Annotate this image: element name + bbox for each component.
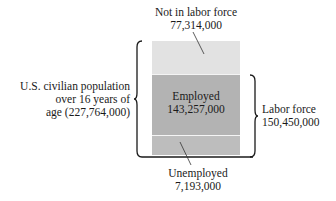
population-stack: Employed 143,257,000 bbox=[152, 41, 240, 155]
unemployed-title: Unemployed bbox=[148, 167, 248, 180]
employed-value: 143,257,000 bbox=[152, 103, 240, 116]
total-population-label: U.S. civilian population over 16 years o… bbox=[2, 80, 130, 119]
segment-employed: Employed 143,257,000 bbox=[152, 75, 240, 135]
labor-force-value: 150,450,000 bbox=[262, 116, 336, 129]
labor-force-title: Labor force bbox=[262, 103, 336, 116]
unemployed-value: 7,193,000 bbox=[148, 180, 248, 193]
segment-not-in-labor-force bbox=[152, 41, 240, 74]
not-in-labor-force-title: Not in labor force bbox=[140, 6, 252, 19]
total-population-line2: over 16 years of bbox=[2, 93, 130, 106]
employed-title: Employed bbox=[152, 90, 240, 103]
labor-force-brace-icon bbox=[250, 75, 258, 157]
segment-unemployed bbox=[152, 136, 240, 155]
labor-force-label: Labor force 150,450,000 bbox=[262, 103, 336, 129]
total-population-line1: U.S. civilian population bbox=[2, 80, 130, 93]
not-in-labor-force-value: 77,314,000 bbox=[140, 19, 252, 32]
unemployed-label: Unemployed 7,193,000 bbox=[148, 167, 248, 193]
not-in-labor-force-label: Not in labor force 77,314,000 bbox=[140, 6, 252, 32]
total-population-brace-icon bbox=[134, 41, 142, 157]
total-population-line3: age (227,764,000) bbox=[2, 106, 130, 119]
